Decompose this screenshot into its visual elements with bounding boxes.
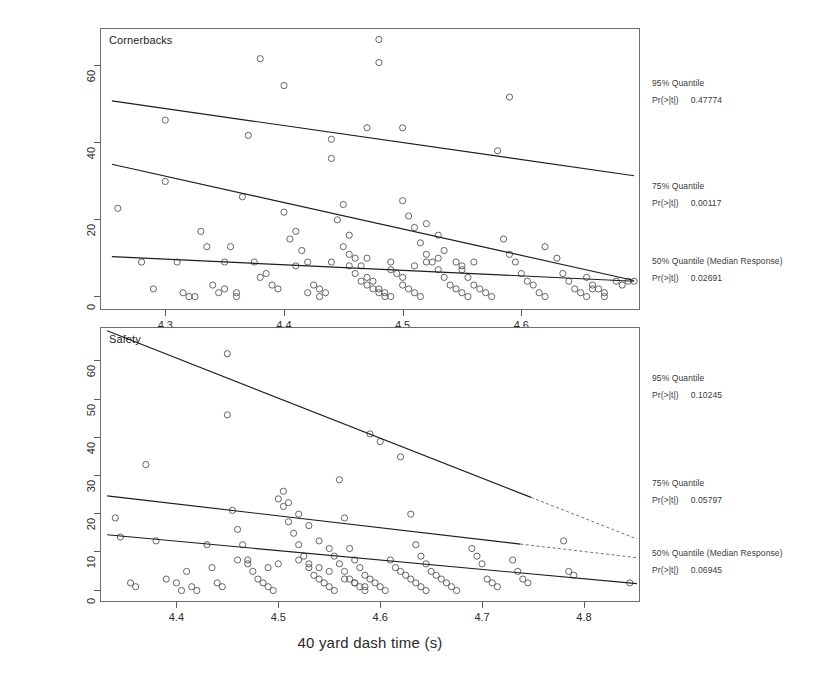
tick-label: 0 [85, 294, 97, 320]
tick-mark [284, 310, 285, 316]
scatter-point [376, 286, 382, 292]
quantile-annotation-pvalue: Pr(>|t|)0.05797 [652, 495, 824, 505]
quantile-annotation-pvalue: Pr(>|t|)0.06945 [652, 565, 824, 575]
scatter-point [376, 59, 382, 65]
scatter-point [287, 236, 293, 242]
scatter-point [494, 584, 500, 590]
scatter-point [423, 221, 429, 227]
scatter-point [500, 236, 506, 242]
quantile-annotation-title: 50% Quantile (Median Response) [652, 256, 824, 266]
pvalue-label: Pr(>|t|) [652, 273, 679, 283]
quantile-fit-line [112, 257, 634, 282]
scatter-point [352, 580, 358, 586]
quantile-fit-line-extrapolated [520, 544, 637, 558]
scatter-point [524, 278, 530, 284]
scatter-point [233, 290, 239, 296]
scatter-point [163, 576, 169, 582]
pvalue-label: Pr(>|t|) [652, 565, 679, 575]
scatter-point [340, 244, 346, 250]
tick-mark [380, 602, 381, 608]
scatter-point [311, 282, 317, 288]
scatter-point [405, 286, 411, 292]
scatter-point [306, 561, 312, 567]
scatter-point [192, 293, 198, 299]
scatter-point [566, 278, 572, 284]
quantile-annotation-block: 95% QuantilePr(>|t|)0.47774 [652, 78, 824, 105]
figure-root: Career Approximate Value 40 yard dash ti… [0, 0, 827, 685]
scatter-point [251, 259, 257, 265]
scatter-point [494, 148, 500, 154]
scatter-point [554, 255, 560, 261]
scatter-point [411, 263, 417, 269]
scatter-point [364, 274, 370, 280]
scatter-point [364, 125, 370, 131]
scatter-point [400, 198, 406, 204]
scatter-point [465, 293, 471, 299]
scatter-point [471, 282, 477, 288]
scatter-point [112, 515, 118, 521]
quantile-annotation-pvalue: Pr(>|t|)0.00117 [652, 198, 824, 208]
scatter-point [316, 286, 322, 292]
scatter-point [441, 247, 447, 253]
scatter-point [370, 286, 376, 292]
scatter-point [296, 542, 302, 548]
pvalue-label: Pr(>|t|) [652, 198, 679, 208]
scatter-point [346, 232, 352, 238]
plot-canvas-top [100, 28, 640, 310]
scatter-point [227, 244, 233, 250]
scatter-point [204, 244, 210, 250]
tick-label: 40 [85, 140, 97, 166]
quantile-annotation-title: 95% Quantile [652, 78, 824, 88]
x-axis-ticks-bottom: 4.44.54.64.74.8 [100, 602, 640, 632]
scatter-point [572, 286, 578, 292]
quantile-annotation-title: 75% Quantile [652, 478, 824, 488]
tick-label: 4.4 [156, 611, 196, 623]
quantile-annotation-block: 95% QuantilePr(>|t|)0.10245 [652, 373, 824, 400]
scatter-point [477, 286, 483, 292]
scatter-point [583, 293, 589, 299]
scatter-point [326, 545, 332, 551]
scatter-point [250, 568, 256, 574]
scatter-point [216, 290, 222, 296]
tick-mark [482, 602, 483, 608]
scatter-point [316, 293, 322, 299]
scatter-point [483, 290, 489, 296]
tick-label: 4.7 [462, 611, 502, 623]
scatter-point [417, 240, 423, 246]
scatter-point [364, 255, 370, 261]
scatter-point [382, 290, 388, 296]
quantile-annotation-title: 50% Quantile (Median Response) [652, 548, 824, 558]
scatter-point [296, 511, 302, 517]
tick-mark [403, 310, 404, 316]
quantile-annotation-pvalue: Pr(>|t|)0.10245 [652, 390, 824, 400]
scatter-point [269, 282, 275, 288]
scatter-point [265, 565, 271, 571]
scatter-point [413, 542, 419, 548]
scatter-point [560, 538, 566, 544]
scatter-point [293, 228, 299, 234]
quantile-annotation-title: 95% Quantile [652, 373, 824, 383]
tick-mark [584, 602, 585, 608]
scatter-point [328, 155, 334, 161]
scatter-point [388, 293, 394, 299]
panel-cornerbacks: Cornerbacks 0204060 4.34.44.54.6 [100, 28, 640, 310]
scatter-point [138, 259, 144, 265]
tick-label: 10 [85, 549, 97, 575]
scatter-point [210, 282, 216, 288]
scatter-point [305, 290, 311, 296]
scatter-point [515, 568, 521, 574]
scatter-point [316, 565, 322, 571]
scatter-point [370, 278, 376, 284]
scatter-point [447, 282, 453, 288]
pvalue-label: Pr(>|t|) [652, 495, 679, 505]
scatter-point [400, 125, 406, 131]
scatter-point [328, 136, 334, 142]
y-axis-ticks-bottom: 0102030405060 [0, 327, 100, 602]
scatter-point [382, 587, 388, 593]
scatter-point [506, 94, 512, 100]
scatter-point [542, 293, 548, 299]
scatter-point [275, 561, 281, 567]
scatter-point [364, 282, 370, 288]
tick-label: 30 [85, 473, 97, 499]
scatter-point [469, 545, 475, 551]
